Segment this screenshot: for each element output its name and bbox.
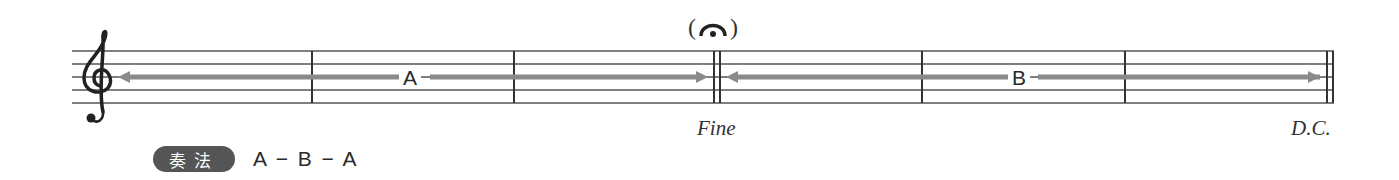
fine-label: Fine [697,116,735,141]
dc-label: D.C. [1291,116,1331,141]
section-a-label: A [399,67,421,89]
performance-order-legend: 奏法 A − B − A [153,146,359,172]
fermata-paren-open: ( [688,14,696,41]
clef-dot [87,114,96,123]
fermata-paren-close: ) [730,14,738,41]
form-sequence-text: A − B − A [253,147,359,171]
fermata-icon [698,16,728,40]
performance-badge: 奏法 [153,146,235,172]
section-b-label: B [1008,67,1030,89]
fermata-mark: ( ) [688,14,738,41]
